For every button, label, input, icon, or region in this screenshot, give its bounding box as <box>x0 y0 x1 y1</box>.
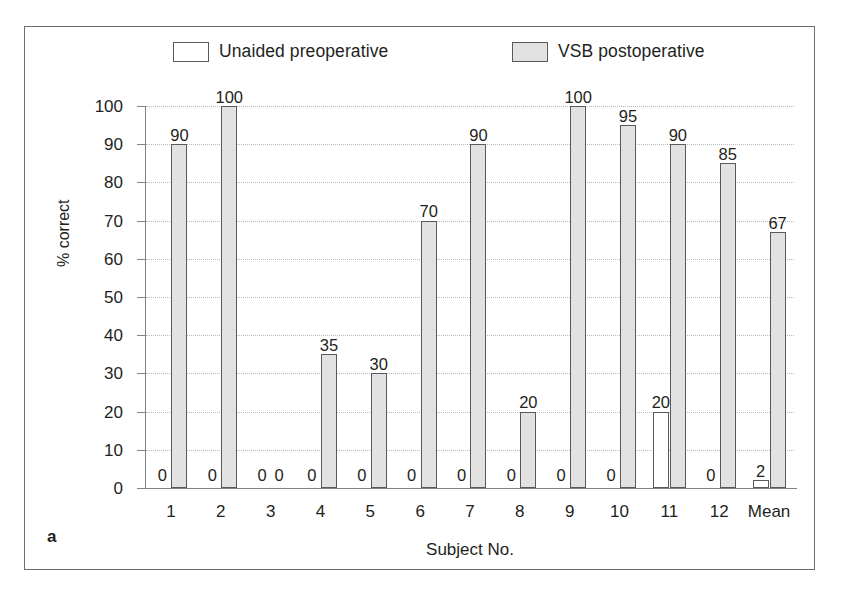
bar-value-label: 35 <box>320 337 338 354</box>
bar-group: 0208 <box>495 106 545 488</box>
bar-value-label: 95 <box>619 108 637 125</box>
bar-value-label: 85 <box>719 146 737 163</box>
bar-value-label: 0 <box>158 467 167 484</box>
bar-group: 0706 <box>395 106 445 488</box>
y-axis-tick-label: 100 <box>95 97 123 117</box>
plot-area: 1009080706050403020100 09010100200303540… <box>146 106 794 488</box>
bar-group: 09510 <box>595 106 645 488</box>
bar-value-label: 70 <box>419 203 437 220</box>
y-axis-tick: 70 <box>137 221 146 222</box>
bar-group: 0305 <box>345 106 395 488</box>
y-axis-tick-label: 20 <box>104 403 123 423</box>
bar-value-label: 0 <box>307 467 316 484</box>
bar-unaided-preoperative[interactable]: 2 <box>753 480 769 488</box>
chart-legend: Unaided preoperative VSB postoperative <box>25 41 814 71</box>
x-axis-tick-label: 11 <box>661 502 679 522</box>
y-axis-tick-label: 60 <box>104 250 123 270</box>
bar-value-label: 0 <box>407 467 416 484</box>
bar-value-label: 20 <box>519 394 537 411</box>
bar-value-label: 20 <box>652 394 670 411</box>
y-axis-tick: 60 <box>137 259 146 260</box>
x-axis-tick-label: 2 <box>216 502 225 522</box>
bar-vsb-postoperative[interactable]: 30 <box>371 373 387 488</box>
bar-value-label: 0 <box>706 467 715 484</box>
bar-value-label: 2 <box>756 463 765 480</box>
bar-value-label: 0 <box>357 467 366 484</box>
bar-value-label: 0 <box>507 467 516 484</box>
y-axis-tick-label: 50 <box>104 288 123 308</box>
bar-vsb-postoperative[interactable]: 67 <box>770 232 786 488</box>
x-axis-tick-label: 5 <box>366 502 375 522</box>
x-axis-tick-label: 1 <box>166 502 175 522</box>
bar-group: 003 <box>246 106 296 488</box>
bar-value-label: 100 <box>216 89 244 106</box>
y-axis-tick-label: 90 <box>104 135 123 155</box>
bar-vsb-postoperative[interactable]: 35 <box>321 354 337 488</box>
y-axis-tick-label: 70 <box>104 212 123 232</box>
y-axis-tick: 80 <box>137 182 146 183</box>
y-axis-tick: 50 <box>137 297 146 298</box>
y-axis-tick: 0 <box>137 488 146 489</box>
bar-vsb-postoperative[interactable]: 95 <box>620 125 636 488</box>
bar-value-label: 100 <box>564 89 592 106</box>
y-axis-tick-label: 10 <box>104 441 123 461</box>
bar-group: 0354 <box>296 106 346 488</box>
legend-label-vsb: VSB postoperative <box>558 41 705 62</box>
y-axis-tick-label: 40 <box>104 326 123 346</box>
bar-group: 01009 <box>545 106 595 488</box>
x-axis-line <box>145 488 797 489</box>
bar-vsb-postoperative[interactable]: 20 <box>520 412 536 488</box>
x-axis-tick-label: 10 <box>610 502 629 522</box>
x-axis-tick-label: Mean <box>748 502 791 522</box>
x-axis-tick-label: 6 <box>415 502 424 522</box>
bar-value-label: 90 <box>170 127 188 144</box>
bar-value-label: 0 <box>275 467 284 484</box>
bar-group: 267Mean <box>744 106 794 488</box>
legend-label-unaided: Unaided preoperative <box>219 41 388 62</box>
y-axis-tick: 100 <box>137 106 146 107</box>
bar-value-label: 30 <box>370 356 388 373</box>
x-axis-tick-label: 7 <box>465 502 474 522</box>
bar-vsb-postoperative[interactable]: 90 <box>171 144 187 488</box>
bar-unaided-preoperative[interactable]: 20 <box>653 412 669 488</box>
legend-swatch-icon-vsb <box>512 42 548 62</box>
figure-panel: Unaided preoperative VSB postoperative %… <box>24 26 815 570</box>
panel-label: a <box>47 527 56 547</box>
bar-group: 08512 <box>694 106 744 488</box>
bar-group: 0901 <box>146 106 196 488</box>
y-axis-label: % correct <box>55 199 73 267</box>
x-axis-label: Subject No. <box>146 540 794 560</box>
bar-vsb-postoperative[interactable]: 100 <box>570 106 586 488</box>
bar-value-label: 0 <box>208 467 217 484</box>
bar-vsb-postoperative[interactable]: 100 <box>221 106 237 488</box>
y-axis-tick-label: 0 <box>114 479 123 499</box>
bar-value-label: 0 <box>557 467 566 484</box>
y-axis-tick: 20 <box>137 412 146 413</box>
x-axis-tick-label: 4 <box>316 502 325 522</box>
bar-vsb-postoperative[interactable]: 85 <box>720 163 736 488</box>
y-axis-tick-label: 80 <box>104 173 123 193</box>
x-axis-tick-label: 9 <box>565 502 574 522</box>
bar-group: 01002 <box>196 106 246 488</box>
legend-item-unaided-preoperative: Unaided preoperative <box>173 41 388 62</box>
y-axis-tick: 40 <box>137 335 146 336</box>
bar-vsb-postoperative[interactable]: 90 <box>470 144 486 488</box>
x-axis-tick-label: 12 <box>710 502 729 522</box>
y-axis-tick-label: 30 <box>104 364 123 384</box>
bar-value-label: 90 <box>469 127 487 144</box>
bar-value-label: 90 <box>669 127 687 144</box>
y-axis-tick: 10 <box>137 450 146 451</box>
bar-value-label: 0 <box>258 467 267 484</box>
legend-swatch-icon-unaided <box>173 42 209 62</box>
bar-group: 0907 <box>445 106 495 488</box>
y-axis-tick: 90 <box>137 144 146 145</box>
bar-vsb-postoperative[interactable]: 70 <box>421 221 437 488</box>
y-axis-tick: 30 <box>137 373 146 374</box>
bar-value-label: 0 <box>606 467 615 484</box>
bar-value-label: 0 <box>457 467 466 484</box>
bar-value-label: 67 <box>768 215 786 232</box>
bar-vsb-postoperative[interactable]: 90 <box>670 144 686 488</box>
legend-item-vsb-postoperative: VSB postoperative <box>512 41 705 62</box>
x-axis-tick-label: 8 <box>515 502 524 522</box>
bar-group: 209011 <box>644 106 694 488</box>
